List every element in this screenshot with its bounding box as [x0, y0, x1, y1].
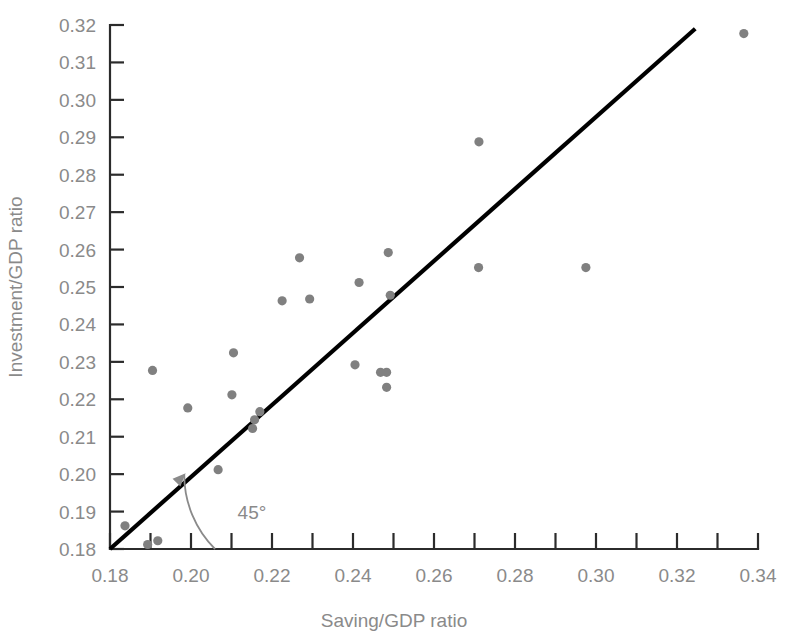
data-point	[183, 403, 192, 412]
x-tick-label: 0.34	[740, 565, 777, 586]
x-tick-label: 0.22	[254, 565, 291, 586]
y-axis-ticks	[110, 25, 124, 549]
data-point	[255, 407, 264, 416]
data-point	[295, 253, 304, 262]
x-tick-label: 0.32	[659, 565, 696, 586]
x-axis-title: Saving/GDP ratio	[321, 610, 467, 631]
data-point	[474, 263, 483, 272]
data-point	[143, 540, 152, 549]
data-point	[248, 424, 257, 433]
y-tick-label: 0.30	[59, 90, 96, 111]
y-tick-label: 0.22	[59, 389, 96, 410]
y-tick-label: 0.31	[59, 52, 96, 73]
data-point	[350, 360, 359, 369]
data-point	[278, 296, 287, 305]
x-tick-label: 0.30	[578, 565, 615, 586]
data-point	[474, 137, 483, 146]
data-point	[305, 294, 314, 303]
data-point	[382, 383, 391, 392]
y-tick-label: 0.29	[59, 127, 96, 148]
x-tick-label: 0.20	[173, 565, 210, 586]
data-point	[386, 291, 395, 300]
y-tick-label: 0.23	[59, 352, 96, 373]
y-tick-label: 0.32	[59, 15, 96, 36]
data-point	[214, 465, 223, 474]
data-point	[153, 536, 162, 545]
x-axis-tick-labels: 0.180.200.220.240.260.280.300.320.34	[92, 565, 777, 586]
y-tick-label: 0.28	[59, 165, 96, 186]
data-point	[384, 248, 393, 257]
angle-arc-annotation	[184, 475, 215, 549]
data-point	[229, 348, 238, 357]
y-tick-label: 0.25	[59, 277, 96, 298]
y-axis-title: Investment/GDP ratio	[5, 196, 26, 377]
chart-canvas: 0.180.190.200.210.220.230.240.250.260.27…	[0, 0, 785, 641]
x-tick-label: 0.26	[416, 565, 453, 586]
data-point	[120, 521, 129, 530]
data-point	[354, 278, 363, 287]
y-axis-tick-labels: 0.180.190.200.210.220.230.240.250.260.27…	[59, 15, 96, 560]
y-tick-label: 0.20	[59, 464, 96, 485]
data-point	[227, 390, 236, 399]
forty-five-degree-reference-line	[110, 29, 695, 549]
y-tick-label: 0.18	[59, 539, 96, 560]
angle-annotation-label: 45°	[238, 502, 267, 523]
x-tick-label: 0.24	[335, 565, 372, 586]
data-point	[739, 29, 748, 38]
y-tick-label: 0.19	[59, 502, 96, 523]
data-point	[382, 368, 391, 377]
y-tick-label: 0.26	[59, 240, 96, 261]
data-point	[250, 415, 259, 424]
x-tick-label: 0.18	[92, 565, 129, 586]
y-tick-label: 0.27	[59, 202, 96, 223]
scatter-chart-figure: 0.180.190.200.210.220.230.240.250.260.27…	[0, 0, 785, 641]
y-tick-label: 0.24	[59, 314, 96, 335]
data-points-layer	[120, 29, 748, 549]
data-point	[148, 366, 157, 375]
data-point	[581, 263, 590, 272]
y-tick-label: 0.21	[59, 427, 96, 448]
x-tick-label: 0.28	[497, 565, 534, 586]
